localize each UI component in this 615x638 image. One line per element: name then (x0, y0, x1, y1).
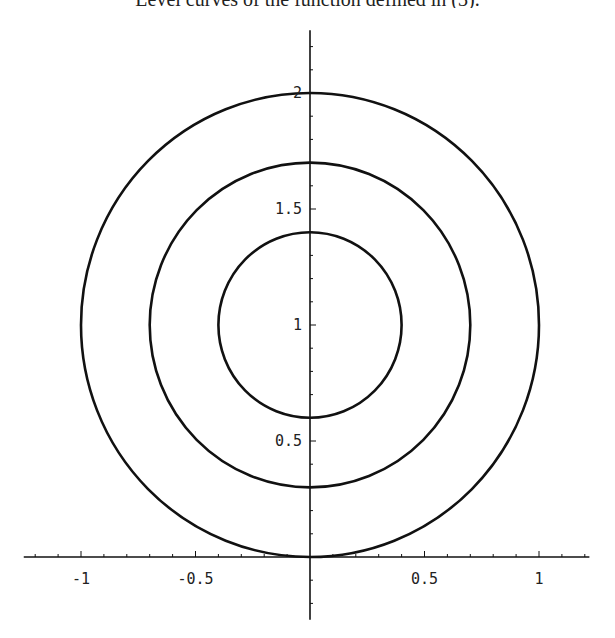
x-tick-label: -1 (72, 570, 90, 588)
y-tick-label: 0.5 (275, 432, 302, 450)
x-tick-label: 1 (534, 570, 543, 588)
y-tick-label: 1 (293, 316, 302, 334)
x-tick-label: -0.5 (177, 570, 213, 588)
axes (24, 30, 590, 619)
contour-plot: -1-0.50.510.511.52 (0, 0, 615, 638)
y-tick-label: 2 (293, 84, 302, 102)
y-tick-label: 1.5 (275, 200, 302, 218)
tick-labels: -1-0.50.510.511.52 (72, 84, 544, 588)
x-tick-label: 0.5 (411, 570, 438, 588)
